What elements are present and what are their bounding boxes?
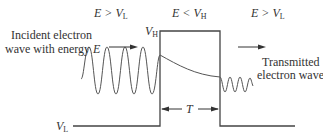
incident-label-line2: wave with energy E [5, 42, 101, 56]
transmitted-label-line1: Transmitted [262, 55, 320, 69]
transmitted-arrowhead [258, 45, 266, 50]
vl-label: VL [56, 119, 68, 134]
region-left-condition: E > VL [93, 6, 128, 21]
tunneling-diagram: E > VL E < VH E > VL Incident electron w… [0, 0, 323, 138]
incident-label-line1: Incident electron [11, 28, 92, 42]
transmitted-wave [220, 77, 253, 92]
width-arrowhead-right [211, 107, 219, 112]
vh-label: VH [145, 24, 158, 39]
width-label: T [186, 102, 194, 116]
width-arrowhead-left [161, 107, 169, 112]
transmitted-label-line2: electron wave [257, 68, 323, 82]
region-right-condition: E > VL [250, 6, 285, 21]
region-barrier-condition: E < VH [171, 6, 207, 21]
decaying-wave [160, 55, 220, 77]
incident-arrowhead [130, 45, 138, 50]
